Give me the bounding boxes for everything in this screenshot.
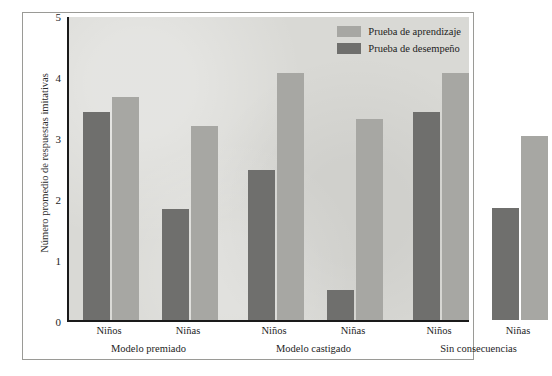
bar-learn-3 — [356, 119, 383, 320]
y-tick-label-1: 1 — [41, 256, 61, 266]
bar-perf-0 — [83, 112, 110, 320]
figure-frame: Número promedio de respuestas imitativas… — [22, 12, 474, 360]
x-sub-label-1-niñas: Niñas — [313, 325, 393, 336]
x-sub-label-0-niños: Niños — [69, 325, 149, 336]
y-tick-label-3: 3 — [41, 134, 61, 144]
y-tick-label-2: 2 — [41, 195, 61, 205]
bar-learn-2 — [277, 73, 304, 320]
y-tick-label-5: 5 — [41, 12, 61, 22]
legend-label-0: Prueba de aprendizaje — [368, 26, 461, 38]
legend-item-0: Prueba de aprendizaje — [337, 24, 461, 39]
x-sub-label-2-niños: Niños — [399, 325, 479, 336]
y-axis-title: Número promedio de respuestas imitativas — [37, 13, 53, 313]
legend-item-1: Prueba de desempeño — [337, 41, 461, 56]
x-sub-label-2-niñas: Niñas — [478, 325, 552, 336]
x-axis-labels: NiñosNiñasModelo premiadoNiñosNiñasModel… — [67, 325, 469, 359]
bar-learn-0 — [112, 97, 139, 320]
bar-learn-5 — [521, 136, 548, 320]
bar-perf-3 — [327, 290, 354, 321]
x-group-label-0: Modelo premiado — [79, 343, 219, 354]
y-tick-label-0: 0 — [41, 317, 61, 327]
x-sub-label-1-niños: Niños — [234, 325, 314, 336]
x-group-label-2: Sin consecuencias — [409, 343, 549, 354]
x-group-label-1: Modelo castigado — [244, 343, 384, 354]
bar-learn-4 — [442, 73, 469, 320]
bar-learn-1 — [191, 126, 218, 320]
x-sub-label-0-niñas: Niñas — [148, 325, 228, 336]
legend-label-1: Prueba de desempeño — [368, 43, 460, 55]
legend-swatch-learn — [337, 26, 361, 37]
bar-perf-1 — [162, 209, 189, 320]
bar-perf-4 — [413, 112, 440, 320]
plot-area: Prueba de aprendizajePrueba de desempeño — [67, 17, 469, 322]
bar-perf-2 — [248, 170, 275, 320]
y-tick-label-4: 4 — [41, 73, 61, 83]
legend-swatch-perf — [337, 43, 361, 54]
bar-perf-5 — [492, 208, 519, 320]
legend: Prueba de aprendizajePrueba de desempeño — [337, 24, 461, 58]
